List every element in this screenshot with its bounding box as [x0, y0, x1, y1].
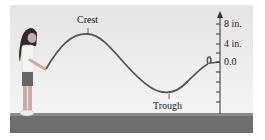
tick-label-4in: 4 in.	[224, 38, 242, 49]
sky-background	[10, 5, 253, 114]
tick-label-zero: 0.0	[224, 56, 237, 67]
crest-label: Crest	[77, 14, 98, 25]
diagram-canvas: Crest Trough 8 in. 4 in. 0.0	[0, 0, 265, 140]
tick-label-8in: 8 in.	[224, 18, 242, 29]
trough-label: Trough	[153, 100, 182, 111]
wave-diagram: Crest Trough 8 in. 4 in. 0.0	[0, 0, 265, 140]
